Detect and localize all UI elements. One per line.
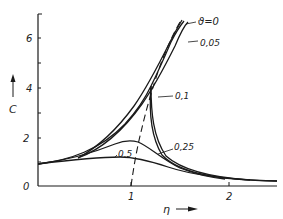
label-theta-0.1: 0,1 xyxy=(175,91,189,101)
y-tick-4: 4 xyxy=(26,83,32,94)
x-tick-1: 1 xyxy=(128,191,134,202)
label-theta-0: ϑ=0 xyxy=(198,16,219,27)
y-tick-6: 6 xyxy=(26,33,32,44)
curve-theta-0.5 xyxy=(38,157,277,181)
y-tick-0: 0 xyxy=(23,181,29,192)
y-tick-2: 2 xyxy=(23,133,29,144)
y-axis-arrow-icon xyxy=(11,74,16,97)
label-theta-0.5: 0,5 xyxy=(118,149,133,159)
x-axis-arrow-icon xyxy=(176,207,198,212)
curve-theta-0-inner xyxy=(151,21,184,86)
y-axis-label: C xyxy=(9,103,17,116)
curve-theta-0 xyxy=(78,20,182,158)
curves xyxy=(38,20,277,186)
curve-theta-0.1 xyxy=(38,86,277,181)
x-tick-2: 2 xyxy=(226,191,232,202)
label-theta-0.05: 0,05 xyxy=(200,38,220,48)
chart: 0 2 4 6 1 2 C η ϑ=0 0,05 0,1 0,25 0,5 xyxy=(0,0,283,219)
label-theta-0.25: 0,25 xyxy=(174,142,194,152)
x-axis-label: η xyxy=(163,203,170,216)
